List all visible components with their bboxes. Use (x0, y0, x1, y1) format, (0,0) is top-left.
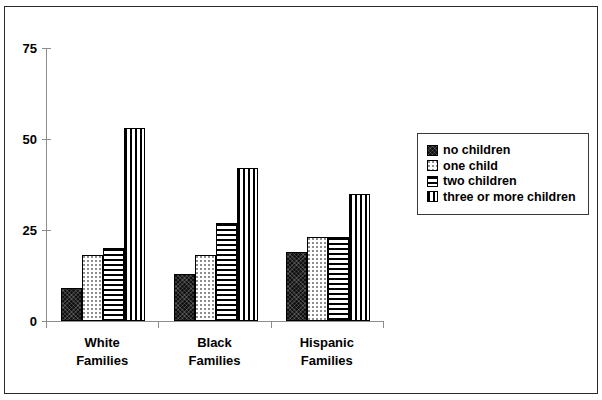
legend-item: no children (427, 144, 579, 157)
legend-item-label: no children (443, 144, 510, 157)
legend-item-label: two children (443, 175, 517, 188)
chart-legend: no childrenone childtwo childrenthree or… (417, 133, 589, 215)
x-tick (46, 321, 47, 328)
x-tick (158, 321, 159, 328)
legend-swatch-icon (427, 145, 438, 156)
bar (124, 128, 145, 321)
bar (195, 255, 216, 321)
legend-item-label: three or more children (443, 191, 576, 204)
y-tick-label-75: 75 (23, 42, 37, 55)
legend-swatch-icon (427, 160, 438, 171)
category-label: White Families (46, 334, 158, 369)
bar (216, 223, 237, 321)
bar (307, 237, 328, 321)
bar (286, 252, 307, 321)
legend-swatch-icon (427, 176, 438, 187)
y-tick-label-50: 50 (23, 133, 37, 146)
legend-item: one child (427, 160, 579, 173)
category-label: Hispanic Families (271, 334, 383, 369)
bars-layer (47, 48, 384, 321)
bar (82, 255, 103, 321)
x-tick (383, 321, 384, 328)
bar (237, 168, 258, 321)
bar (174, 274, 195, 321)
y-tick-label-25: 25 (23, 224, 37, 237)
x-tick (271, 321, 272, 328)
x-axis-line (46, 321, 383, 322)
legend-item: three or more children (427, 191, 579, 204)
chart-figure: 0255075 White FamiliesBlack FamiliesHisp… (0, 0, 602, 400)
bar (349, 194, 370, 321)
legend-item: two children (427, 175, 579, 188)
plot-area: 0255075 (46, 44, 386, 325)
legend-swatch-icon (427, 191, 438, 202)
category-label: Black Families (158, 334, 270, 369)
legend-item-label: one child (443, 160, 498, 173)
bar (61, 288, 82, 321)
bar (328, 237, 349, 321)
y-tick-label-0: 0 (30, 315, 37, 328)
bar (103, 248, 124, 321)
